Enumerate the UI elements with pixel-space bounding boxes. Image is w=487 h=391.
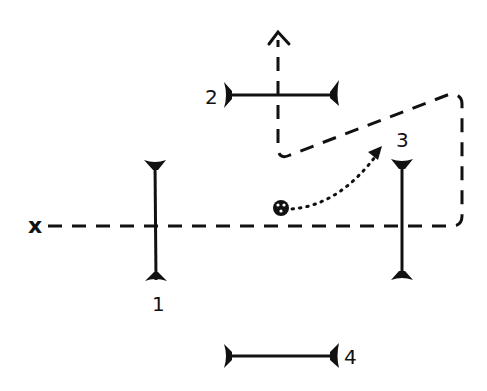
mirror-3-label: 3 xyxy=(396,128,409,152)
mirror-4 xyxy=(224,343,339,368)
source-icon xyxy=(273,200,289,216)
optics-diagram: x 1 2 3 4 xyxy=(0,0,487,391)
mirror-3 xyxy=(391,159,413,280)
axis-label-x: x xyxy=(28,213,42,238)
mirror-2-label: 2 xyxy=(205,85,218,109)
mirror-1 xyxy=(144,160,167,281)
dotted-curve-path xyxy=(292,153,378,209)
mirror-1-label: 1 xyxy=(152,292,165,316)
mirror-4-label: 4 xyxy=(344,345,357,369)
mirror-2 xyxy=(224,80,339,108)
